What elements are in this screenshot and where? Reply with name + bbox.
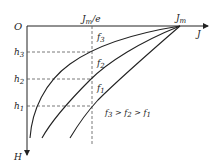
jme-label: Jm/e <box>80 14 101 26</box>
f1-label: f1 <box>96 83 105 95</box>
f3-label: f3 <box>96 32 105 44</box>
h2-label: h2 <box>14 74 25 86</box>
origin-label: O <box>14 21 22 32</box>
x-axis-label: J <box>195 29 202 39</box>
h3-label: h3 <box>14 47 25 59</box>
frequency-relation: f3 > f2 > f1 <box>104 108 151 119</box>
h1-label: h1 <box>14 101 24 113</box>
y-axis-label: H <box>13 152 22 162</box>
jm-label: Jm <box>174 13 187 25</box>
current-density-depth-diagram: O Jm/e Jm J H h3 h2 h1 f3 f2 f1 f3 > f2 … <box>0 0 220 166</box>
curve-f1 <box>70 26 180 138</box>
f2-label: f2 <box>96 58 105 70</box>
